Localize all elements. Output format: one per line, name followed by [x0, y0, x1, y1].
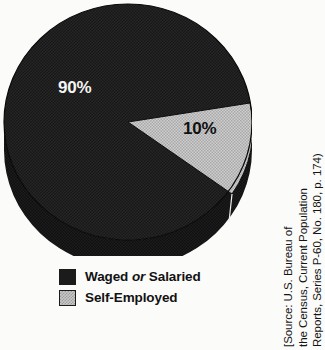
- legend-item-self-employed: Self-Employed: [59, 287, 239, 308]
- legend-swatch-light-icon: [59, 290, 76, 306]
- legend-label-part-italic: or: [132, 269, 145, 284]
- source-note: [Source: U.S. Bureau of the Census, Curr…: [241, 0, 285, 350]
- pie-value-label-waged-or-salaried: 90%: [58, 78, 91, 98]
- legend-label-part-pre: Waged: [85, 269, 132, 284]
- pie-chart-graphic: 90% 10%: [0, 0, 252, 256]
- chart-legend: Waged or Salaried Self-Employed: [59, 266, 239, 308]
- pie-value-label-self-employed: 10%: [183, 119, 216, 139]
- legend-label-waged-or-salaried: Waged or Salaried: [85, 269, 201, 284]
- legend-swatch-dark-icon: [59, 269, 76, 285]
- legend-label-part-post: Salaried: [145, 269, 200, 284]
- source-line: [Source: U.S. Bureau of: [282, 147, 296, 347]
- source-line: Reports, Series P-60, No. 180, p. 174): [311, 147, 325, 347]
- legend-item-waged-or-salaried: Waged or Salaried: [59, 266, 239, 287]
- source-note-rotated-text: [Source: U.S. Bureau of the Census, Curr…: [282, 147, 325, 347]
- legend-label-self-employed: Self-Employed: [85, 290, 177, 305]
- source-line: the Census, Current Population: [297, 147, 311, 347]
